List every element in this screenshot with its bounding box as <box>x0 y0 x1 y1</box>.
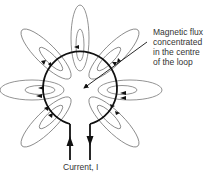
current-loop <box>43 51 117 124</box>
flux-annotation: Magnetic flux concentrated in the centre… <box>153 27 206 67</box>
annotation-line: in the centre <box>153 47 206 57</box>
arrow-up-icon <box>67 136 74 146</box>
annotation-line: Magnetic flux <box>153 27 206 37</box>
annotation-line: concentrated <box>153 37 206 47</box>
current-label: Current, I <box>63 162 98 172</box>
arrow-down-icon <box>87 136 94 146</box>
annotation-line: of the loop <box>153 57 206 67</box>
field-lines <box>0 5 162 153</box>
